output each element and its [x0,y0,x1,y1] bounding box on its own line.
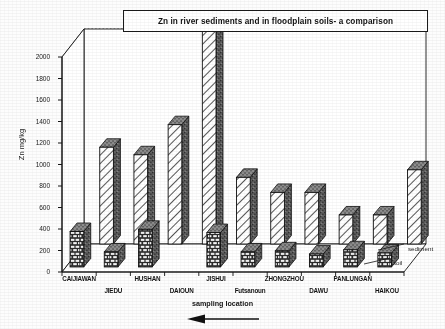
bar-sediment [271,192,285,244]
bar-sediment [168,125,182,244]
bar-soil [104,252,118,267]
bar-side-face [284,184,291,244]
x-axis-category-label: DAWU [309,287,328,294]
x-axis-category-label: CAIJIAWAN [62,275,96,282]
x-axis-category-label: HAIKOU [375,287,399,294]
x-axis-category-label: PANLUNGAN [333,275,371,282]
x-axis-category-label: Futsanoun [235,287,266,294]
bar-soil [344,250,358,267]
chart-figure: Zn in river sediments and in floodplain … [0,0,445,329]
legend-label-soil: soil [393,259,402,266]
bar-sediment [237,177,251,244]
bar-sediment [305,192,319,244]
bar-soil [138,229,152,267]
bar-sediment [339,215,353,244]
bar-soil [207,233,221,267]
x-axis-category-label: DAIOUN [170,287,194,294]
bar-sediment [100,147,114,244]
bar-side-face [216,11,223,244]
x-axis-direction-arrow-icon [0,310,445,328]
x-axis-category-label: JIEDU [104,287,122,294]
bar-sediment [373,215,387,244]
x-axis-category-label: JISHUI [206,275,225,282]
x-axis-category-label: ZHONGZHOU [265,275,304,282]
bar-soil [241,252,255,267]
bar-sediment [408,170,422,244]
chart-title: Zn in river sediments and in floodplain … [158,17,393,26]
x-axis-category-label: HUSHAN [134,275,160,282]
bar-side-face [319,184,326,244]
bar-sediment [202,19,216,244]
chart-title-box: Zn in river sediments and in floodplain … [123,10,428,32]
bar-soil [70,231,84,266]
bar-side-face [113,139,120,244]
bar-soil [275,251,289,267]
x-axis-title: sampling location [0,299,445,308]
bar-side-face [250,169,257,244]
bar-soil [309,254,323,267]
bar-side-face [421,161,428,244]
bar-side-face [182,116,189,244]
legend-label-sediment: sediment [408,245,433,252]
